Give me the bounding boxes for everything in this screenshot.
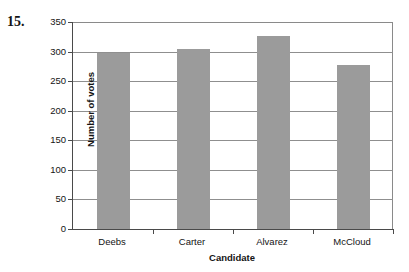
y-axis-tick-label-text: 100: [26, 165, 66, 175]
bar-chart-figure: Number of votes 050100150200250300350 De…: [0, 0, 409, 272]
y-axis-tick: [68, 170, 73, 171]
y-axis-tick-label: 300: [26, 47, 66, 57]
y-axis-tick: [68, 22, 73, 23]
x-axis-tick: [153, 229, 154, 234]
x-axis-tick: [313, 229, 314, 234]
y-axis-title: Number of votes: [85, 60, 96, 160]
x-axis-tick: [233, 229, 234, 234]
y-axis-tick: [68, 81, 73, 82]
y-axis-tick-label: 100: [26, 165, 66, 175]
plot-area: Number of votes: [72, 22, 393, 230]
plot-border-right: [392, 22, 393, 229]
y-axis-tick-label: 50: [26, 194, 66, 204]
x-axis-tick-label: Alvarez: [232, 236, 312, 247]
y-axis-tick-label-text: 0: [26, 224, 66, 234]
y-axis-tick-label-text: 200: [26, 106, 66, 116]
x-axis-tick-label: Carter: [152, 236, 232, 247]
bar: [97, 53, 130, 229]
bar: [337, 65, 370, 229]
y-axis-tick: [68, 199, 73, 200]
y-axis-tick: [68, 229, 73, 230]
x-axis-tick-label: Deebs: [72, 236, 152, 247]
y-axis-tick: [68, 111, 73, 112]
y-axis-tick-label-text: 50: [26, 194, 66, 204]
bar: [177, 49, 210, 229]
x-axis-tick: [393, 229, 394, 234]
y-axis-tick-label: 350: [26, 17, 66, 27]
plot-border-top: [73, 22, 393, 23]
y-axis-tick-label-text: 250: [26, 76, 66, 86]
page-root: 15. Number of votes 05010015020025030035…: [0, 0, 409, 272]
y-axis-tick-label: 150: [26, 135, 66, 145]
y-axis-tick-label: 200: [26, 106, 66, 116]
y-axis-tick-label: 250: [26, 76, 66, 86]
x-axis-tick-label: McCloud: [312, 236, 392, 247]
y-axis-tick-label-text: 300: [26, 47, 66, 57]
y-axis-tick: [68, 140, 73, 141]
bar: [257, 36, 290, 229]
y-axis-tick-label-text: 150: [26, 135, 66, 145]
x-axis-title: Candidate: [72, 252, 392, 263]
y-axis-tick-label: 0: [26, 224, 66, 234]
y-axis-tick-label-text: 350: [26, 17, 66, 27]
y-axis-tick: [68, 52, 73, 53]
